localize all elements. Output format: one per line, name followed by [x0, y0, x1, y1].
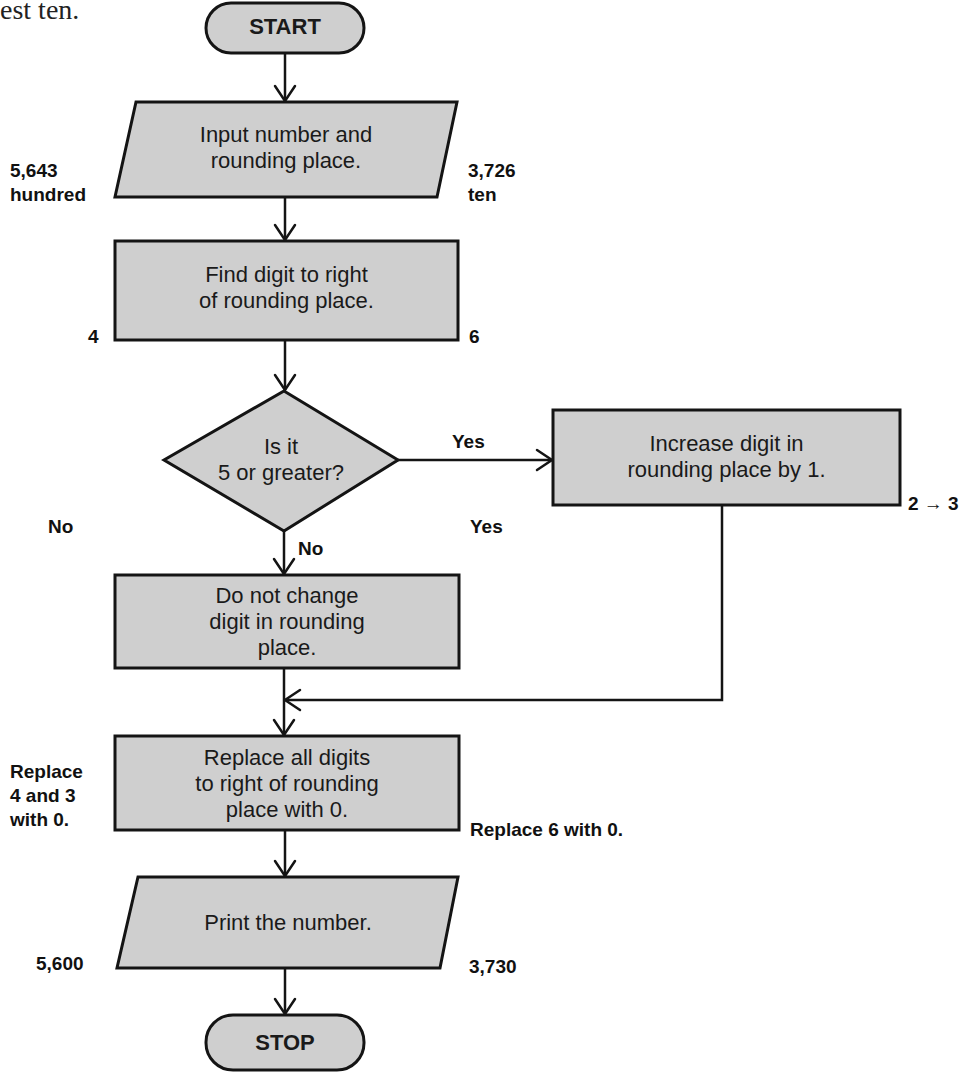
stop-label: STOP	[206, 1030, 364, 1056]
replace-digits-label: Replace all digits to right of rounding …	[115, 745, 459, 823]
right-example-replace: Replace 6 with 0.	[470, 818, 623, 842]
caption-fragment: est ten.	[0, 0, 79, 26]
left-example-replace: Replace 4 and 3 with 0.	[10, 760, 83, 832]
left-example-input: 5,643 hundred	[10, 159, 86, 207]
no-change-label: Do not change digit in rounding place.	[115, 583, 459, 661]
print-label: Print the number.	[128, 910, 448, 936]
edge-label-no: No	[298, 537, 323, 561]
right-example-increase: 2 → 3	[908, 492, 959, 516]
left-example-digit: 4	[88, 325, 99, 349]
increase-digit-label: Increase digit in rounding place by 1.	[553, 431, 900, 483]
left-example-output: 5,600	[36, 952, 84, 976]
start-label: START	[206, 14, 364, 40]
right-example-output: 3,730	[469, 955, 517, 979]
edge-label-yes: Yes	[452, 430, 485, 454]
right-example-digit: 6	[469, 325, 480, 349]
find-digit-label: Find digit to right of rounding place.	[115, 262, 458, 314]
right-example-decision: Yes	[470, 515, 503, 539]
decision-label: Is it 5 or greater?	[164, 434, 398, 486]
right-example-input: 3,726 ten	[468, 159, 516, 207]
left-example-decision: No	[48, 515, 73, 539]
input-label: Input number and rounding place.	[126, 122, 446, 174]
